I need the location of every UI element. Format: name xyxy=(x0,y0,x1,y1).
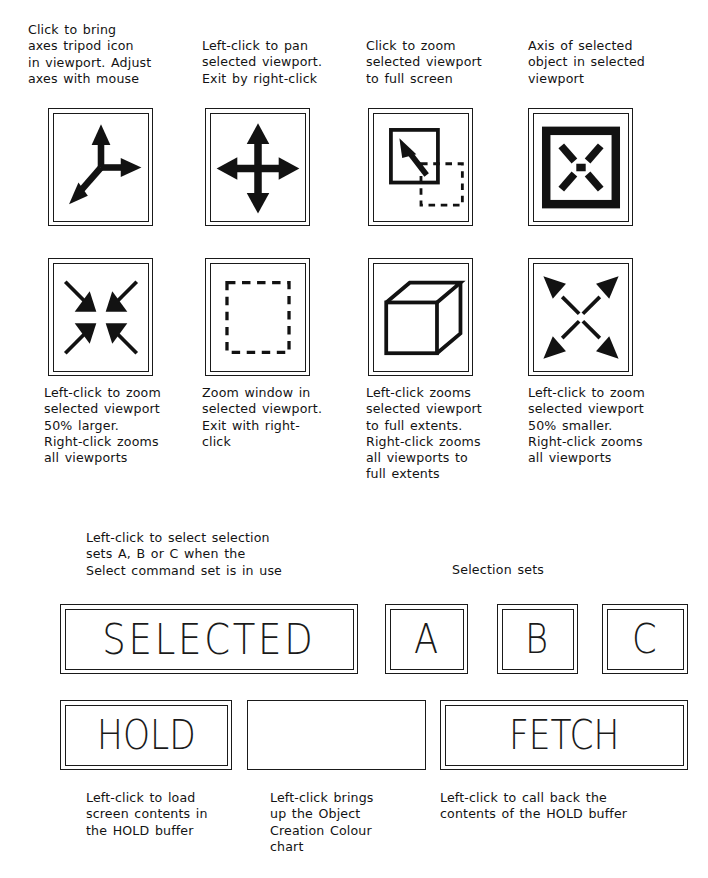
selection-set-c-button[interactable]: C xyxy=(602,604,688,674)
tool-button-zoom-in[interactable] xyxy=(48,258,153,376)
caption-object-axis: Axis of selected object in selected view… xyxy=(528,38,698,87)
zoom-out-arrows-icon xyxy=(534,264,628,371)
tool-button-frame xyxy=(373,113,469,222)
zoom-extents-cube-icon xyxy=(374,264,468,371)
tool-button-frame xyxy=(210,113,306,222)
caption-zoom-in: Left-click to zoom selected viewport 50%… xyxy=(44,385,209,466)
caption-pan-viewport: Left-click to pan selected viewport. Exi… xyxy=(202,38,362,87)
selection-set-c-frame: C xyxy=(607,609,684,670)
zoom-in-arrows-icon xyxy=(54,264,148,371)
caption-object-creation-colour: Left-click brings up the Object Creation… xyxy=(270,790,430,855)
tool-button-frame xyxy=(533,113,629,222)
selection-set-b-frame: B xyxy=(502,609,574,670)
caption-selection-sets-instruction: Left-click to select selection sets A, B… xyxy=(86,530,376,579)
tool-button-zoom-window[interactable] xyxy=(205,258,310,376)
fetch-button[interactable]: FETCH xyxy=(440,700,688,770)
selection-set-a-label: A xyxy=(414,619,439,660)
hold-button[interactable]: HOLD xyxy=(60,700,232,770)
tool-button-object-axis[interactable] xyxy=(528,108,633,226)
selection-set-b-label: B xyxy=(525,619,549,660)
object-creation-colour-frame xyxy=(248,701,425,769)
selected-button[interactable]: SELECTED xyxy=(60,604,358,674)
tool-button-frame xyxy=(210,263,306,372)
tool-button-zoom-out[interactable] xyxy=(528,258,633,376)
selection-sets-label: Selection sets xyxy=(452,562,544,577)
tool-button-axes-tripod[interactable] xyxy=(48,108,153,226)
selection-set-a-frame: A xyxy=(390,609,464,670)
zoom-window-dashed-icon xyxy=(211,264,305,371)
caption-hold-buffer: Left-click to load screen contents in th… xyxy=(86,790,261,839)
axes-tripod-icon xyxy=(54,114,148,221)
selection-set-b-button[interactable]: B xyxy=(497,604,578,674)
selection-set-c-label: C xyxy=(632,619,658,660)
tool-button-frame xyxy=(373,263,469,372)
caption-zoom-out: Left-click to zoom selected viewport 50%… xyxy=(528,385,698,466)
tool-button-frame xyxy=(533,263,629,372)
zoom-full-screen-icon xyxy=(374,114,468,221)
caption-fetch-buffer: Left-click to call back the contents of … xyxy=(440,790,700,823)
fetch-button-frame: FETCH xyxy=(445,705,684,766)
hold-button-label: HOLD xyxy=(97,715,196,755)
object-axis-icon xyxy=(534,114,628,221)
tool-button-frame xyxy=(53,113,149,222)
selected-button-frame: SELECTED xyxy=(65,609,354,670)
caption-zoom-extents: Left-click zooms selected viewport to fu… xyxy=(366,385,531,483)
selected-button-label: SELECTED xyxy=(102,618,315,661)
tool-button-frame xyxy=(53,263,149,372)
tool-button-pan[interactable] xyxy=(205,108,310,226)
tool-button-zoom-full-screen[interactable] xyxy=(368,108,473,226)
object-creation-colour-button[interactable] xyxy=(247,700,426,770)
caption-axes-tripod: Click to bring axes tripod icon in viewp… xyxy=(28,22,198,87)
caption-zoom-window: Zoom window in selected viewport. Exit w… xyxy=(202,385,362,450)
caption-zoom-full-screen: Click to zoom selected viewport to full … xyxy=(366,38,526,87)
pan-four-way-arrows-icon xyxy=(211,114,305,221)
hold-button-frame: HOLD xyxy=(65,705,228,766)
selection-set-a-button[interactable]: A xyxy=(385,604,468,674)
fetch-button-label: FETCH xyxy=(509,715,619,755)
tool-button-zoom-extents[interactable] xyxy=(368,258,473,376)
